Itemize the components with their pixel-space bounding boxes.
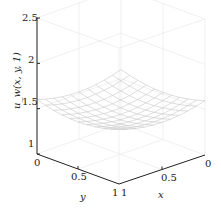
y-tick-0.5: 0.5 <box>71 172 87 182</box>
x-tick-0.5: 0.5 <box>161 173 177 183</box>
x-axis-label: x <box>158 190 164 200</box>
grid-line <box>78 140 163 170</box>
z-tick-2: 2 <box>28 55 34 65</box>
box-edge <box>37 18 119 48</box>
y-tick-1: 1 <box>112 188 118 198</box>
z-tick-1: 1 <box>28 139 34 149</box>
axis-box <box>37 0 205 184</box>
z-tick-2.5: 2.5 <box>22 13 38 23</box>
mesh-line <box>113 75 197 106</box>
mesh-line <box>96 85 179 116</box>
x-tick-1: 1 <box>121 188 127 198</box>
mesh-line <box>62 85 147 115</box>
x-tick-0: 0 <box>205 159 211 169</box>
box-edge <box>119 19 205 48</box>
y-tick-0: 0 <box>34 158 40 168</box>
mesh-line <box>79 92 162 123</box>
y-axis-label: y <box>80 192 86 202</box>
z-axis-label: u_w(x, y, 1) <box>11 52 22 109</box>
z-tick-1.5: 1.5 <box>22 97 38 107</box>
